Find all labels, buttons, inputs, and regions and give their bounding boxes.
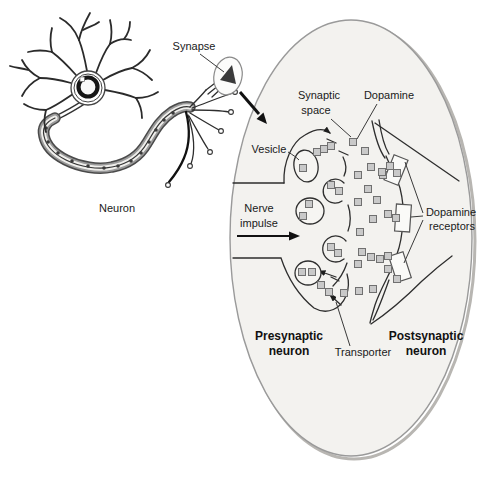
dopamine-molecule [300,165,307,172]
dopamine-molecule [377,256,384,263]
diagram-canvas: Neuron Synapse [0,0,502,479]
presynaptic-label-line2: neuron [269,344,310,358]
synaptic-space-label-line1: Synaptic [298,89,341,101]
transporter-label: Transporter [335,346,392,358]
synapse-diagram: Neuron Synapse [0,0,502,479]
nerve-impulse-label-line2: impulse [240,217,278,229]
dopamine-receptors-label-line1: Dopamine [426,206,476,218]
dopamine-molecule [335,250,342,257]
dopamine-receptors-label-line2: receptors [429,220,475,232]
dopamine-molecule [355,172,362,179]
dopamine-molecule [326,289,333,296]
dopamine-molecule [300,213,307,220]
dopamine-molecule [394,170,401,177]
dopamine-molecule [393,215,400,222]
postsynaptic-label-line2: neuron [406,344,447,358]
dopamine-molecule [309,269,316,276]
dopamine-molecule [328,182,335,189]
dopamine-molecule [370,286,377,293]
dopamine-molecule [328,143,335,150]
dopamine-molecule [374,197,381,204]
dopamine-molecule [306,201,313,208]
dopamine-molecule [357,229,364,236]
dopamine-molecule [359,249,366,256]
dopamine-molecule [314,149,321,156]
dopamine-molecule [350,139,357,146]
dopamine-molecule [368,254,375,261]
dopamine-molecule [394,276,401,283]
dopamine-molecule [385,211,392,218]
dopamine-molecule [356,288,363,295]
dopamine-molecule [299,269,306,276]
neuron-label: Neuron [99,202,135,214]
dopamine-label: Dopamine [364,89,414,101]
dopamine-molecule [321,146,328,153]
dopamine-molecule [341,290,348,297]
dopamine-molecule [370,216,377,223]
dopamine-molecule [365,186,372,193]
nucleus-highlight [80,77,85,82]
magnified-synapse-view [230,20,475,459]
presynaptic-label-line1: Presynaptic [255,329,323,343]
myelinated-axon [43,107,190,170]
dopamine-molecule [385,253,392,260]
dopamine-molecule [328,244,335,251]
dopamine-molecule [379,169,386,176]
synapse-label: Synapse [173,40,216,52]
dopamine-molecule [387,163,394,170]
dopamine-molecule [368,164,375,171]
magnifier-ellipse [230,20,472,456]
dopamine-molecule [355,261,362,268]
dopamine-molecule [362,148,369,155]
cell-body [71,71,105,105]
postsynaptic-label-line1: Postsynaptic [389,329,464,343]
dopamine-molecule [355,199,362,206]
nerve-impulse-label-line1: Nerve [244,202,273,214]
dopamine-molecule [318,282,325,289]
vesicle-label: Vesicle [252,143,287,155]
synaptic-space-label-line2: space [301,104,330,116]
dopamine-molecule [336,188,343,195]
dopamine-molecule [385,266,392,273]
synapse-terminal [210,55,245,98]
